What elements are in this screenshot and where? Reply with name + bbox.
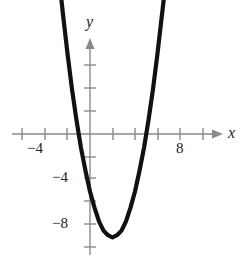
- y-axis: [84, 38, 96, 255]
- x-axis-arrowhead: [212, 130, 223, 139]
- x-tick-label-neg4: −4: [27, 141, 43, 156]
- y-axis-label: y: [86, 14, 93, 30]
- y-axis-arrowhead: [86, 38, 95, 49]
- y-tick-label-neg8: −8: [52, 216, 68, 231]
- x-tick-label-8: 8: [176, 141, 184, 156]
- coordinate-plane-svg: [0, 0, 247, 264]
- y-tick-label-neg4: −4: [52, 170, 68, 185]
- x-axis-label: x: [228, 125, 235, 141]
- x-axis: [12, 128, 223, 140]
- graph-figure: −4 8 −4 −8 y x: [0, 0, 247, 264]
- parabola-curve: [60, 0, 166, 237]
